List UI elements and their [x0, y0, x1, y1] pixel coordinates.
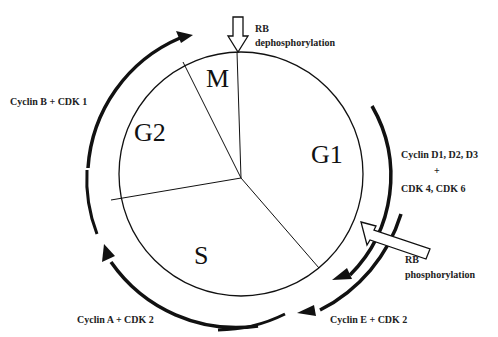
- cyclin-a-label: Cyclin A + CDK 2: [77, 313, 154, 327]
- cyclin-d-label-1: Cyclin D1, D2, D3: [401, 148, 478, 162]
- cyclin-a-tail: [87, 170, 97, 234]
- rb-phosphorylation-label-1: RB: [405, 253, 419, 267]
- divider-m-g1: [237, 52, 241, 178]
- cyclin-d-label-2: CDK 4, CDK 6: [401, 182, 465, 196]
- cyclin-d-plus: +: [434, 164, 440, 178]
- cyclin-a-arrowhead-icon: [102, 244, 115, 262]
- cyclin-b-arrowhead-icon: [176, 31, 193, 43]
- divider-g1-s: [241, 178, 319, 268]
- phase-g2: G2: [134, 118, 166, 148]
- phase-s: S: [194, 241, 208, 271]
- rb-dephosphorylation-label-1: RB: [255, 22, 269, 36]
- cyclin-e-arrowhead-icon: [297, 305, 316, 316]
- phase-m: M: [206, 64, 229, 94]
- cyclin-e-label: Cyclin E + CDK 2: [330, 313, 407, 327]
- cell-cycle-diagram: [0, 0, 498, 337]
- rb-dephosphorylation-label-2: dephosphorylation: [255, 36, 335, 50]
- divider-s-g2: [111, 178, 241, 200]
- rb-phosphorylation-label-2: phosphorylation: [405, 268, 475, 282]
- rb-dephosphorylation-arrow-icon: [228, 17, 248, 52]
- cyclin-b-label: Cyclin B + CDK 1: [10, 95, 87, 109]
- cyclin-d-arrowhead-icon: [332, 268, 352, 280]
- phase-g1: G1: [311, 140, 343, 170]
- cyclin-b-arrow: [88, 38, 180, 168]
